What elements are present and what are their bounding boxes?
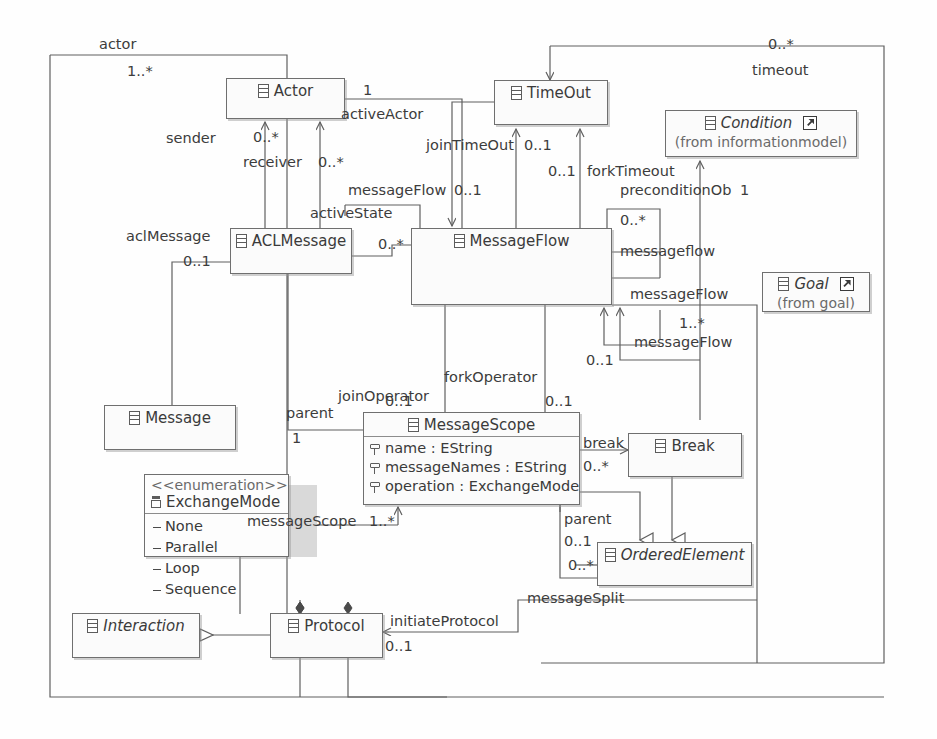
class-box-break[interactable]: Break bbox=[628, 433, 742, 477]
edge-label-activeactor-multiplicity: 1 bbox=[363, 82, 372, 98]
edge-label-jointimeout: joinTimeOut bbox=[426, 137, 514, 153]
edge-label-parent2: parent bbox=[564, 511, 612, 527]
class-box-messagescope[interactable]: MessageScope name : EString messageNames… bbox=[363, 412, 580, 505]
edge-label-messageflow-self: messageflow bbox=[620, 243, 715, 259]
class-title-goal: Goal bbox=[763, 273, 869, 295]
class-name-label: MessageScope bbox=[424, 416, 535, 434]
class-title-condition: Condition bbox=[666, 111, 856, 134]
class-box-messageflow[interactable]: MessageFlow bbox=[411, 228, 612, 305]
attribute-icon bbox=[370, 462, 380, 474]
edge-label-activestate: activeState bbox=[310, 205, 392, 221]
class-title-interaction: Interaction bbox=[73, 614, 199, 637]
class-icon bbox=[655, 439, 666, 453]
literal-dash-icon bbox=[153, 548, 161, 549]
class-name-label: Message bbox=[145, 409, 211, 427]
enum-literal-row: Loop bbox=[145, 558, 288, 579]
edge-label-messageflow-activestate: messageFlow bbox=[348, 182, 446, 198]
class-name-label: Goal bbox=[794, 275, 828, 293]
edge-label-forktimeout-multiplicity: 0..1 bbox=[548, 163, 576, 179]
enum-literal-row: Parallel bbox=[145, 537, 288, 558]
edge-label-forkoperator: forkOperator bbox=[444, 369, 537, 385]
attribute-icon bbox=[370, 481, 380, 493]
edge-label-messageflow-activestate-multiplicity: 0..1 bbox=[454, 182, 482, 198]
edge-label-receiver-multiplicity: 0..* bbox=[318, 154, 344, 170]
class-icon bbox=[408, 418, 419, 432]
edge-label-aclmessage-multiplicity: 0..1 bbox=[183, 253, 211, 269]
edge-label-sender-multiplicity: 0..* bbox=[253, 129, 279, 145]
enum-literal-label: Parallel bbox=[165, 539, 218, 555]
edge-label-initiateprotocol: initiateProtocol bbox=[390, 613, 499, 629]
class-icon bbox=[236, 234, 247, 248]
attribute-row: messageNames : EString bbox=[370, 458, 575, 477]
class-icon bbox=[778, 277, 789, 291]
class-title-break: Break bbox=[629, 434, 741, 457]
enum-literal-label: None bbox=[165, 518, 203, 534]
class-title-actor: Actor bbox=[227, 79, 344, 102]
class-box-orderedelement[interactable]: OrderedElement bbox=[597, 542, 752, 586]
class-package-label: (from goal) bbox=[763, 295, 869, 314]
edge-label-joinoperator-multiplicity: 0..1 bbox=[385, 393, 413, 409]
class-box-condition[interactable]: Condition (from informationmodel) bbox=[665, 110, 857, 157]
class-title-messagescope: MessageScope bbox=[364, 413, 579, 436]
edge-label-timeout-multiplicity: 0..* bbox=[768, 36, 794, 52]
attribute-icon bbox=[370, 443, 380, 455]
class-box-aclmessage[interactable]: ACLMessage bbox=[230, 228, 352, 274]
class-name-label: Break bbox=[671, 437, 714, 455]
external-ref-icon[interactable] bbox=[803, 116, 817, 130]
class-box-timeout[interactable]: TimeOut bbox=[494, 80, 608, 125]
class-icon bbox=[705, 116, 716, 130]
attribute-label: name : EString bbox=[385, 439, 493, 458]
class-box-interaction[interactable]: Interaction bbox=[72, 613, 200, 658]
class-icon bbox=[288, 619, 299, 633]
class-title-message: Message bbox=[105, 406, 235, 429]
class-box-actor[interactable]: Actor bbox=[226, 78, 345, 119]
edge-label-parent2-multiplicity: 0..1 bbox=[564, 533, 592, 549]
enum-literal-label: Loop bbox=[165, 560, 200, 576]
edge-label-break-multiplicity: 0..* bbox=[583, 458, 609, 474]
class-title-orderedelement: OrderedElement bbox=[598, 543, 751, 566]
class-name-label: TimeOut bbox=[527, 84, 591, 102]
class-name-label: MessageFlow bbox=[470, 232, 570, 250]
class-name-label: ACLMessage bbox=[252, 232, 347, 250]
edge-label-messageflow-c: messageFlow bbox=[630, 286, 728, 302]
edge-label-activeactor: activeActor bbox=[341, 106, 423, 122]
literal-dash-icon bbox=[153, 590, 161, 591]
class-icon bbox=[258, 84, 269, 98]
class-box-goal[interactable]: Goal (from goal) bbox=[762, 272, 870, 312]
enumeration-stereotype-label: <<enumeration>> bbox=[145, 475, 288, 493]
class-icon bbox=[87, 619, 98, 633]
class-name-label: Actor bbox=[274, 82, 313, 100]
edge-label-actor: actor bbox=[99, 36, 136, 52]
attribute-list-messagescope: name : EString messageNames : EString op… bbox=[364, 437, 579, 499]
enum-literal-row: Sequence bbox=[145, 579, 288, 600]
edge-label-messagescope: messageScope bbox=[247, 513, 356, 529]
edge-label-aclmessage: aclMessage bbox=[126, 228, 210, 244]
class-title-timeout: TimeOut bbox=[495, 81, 607, 104]
edge-label-timeout: timeout bbox=[752, 62, 809, 78]
edge-label-parent: parent bbox=[286, 405, 334, 421]
edge-label-forkoperator-multiplicity: 0..1 bbox=[545, 393, 573, 409]
class-name-label: OrderedElement bbox=[621, 546, 745, 564]
attribute-row: operation : ExchangeMode bbox=[370, 477, 575, 496]
class-name-label: ExchangeMode bbox=[166, 493, 280, 511]
class-icon bbox=[605, 548, 616, 562]
class-name-label: Protocol bbox=[304, 617, 364, 635]
edge-label-messagesplit: messageSplit bbox=[527, 590, 624, 606]
class-icon bbox=[454, 234, 465, 248]
attribute-label: messageNames : EString bbox=[385, 458, 567, 477]
attribute-row: name : EString bbox=[370, 439, 575, 458]
class-title-aclmessage: ACLMessage bbox=[231, 229, 351, 252]
edge-label-messageflow-left-multiplicity: 0..* bbox=[378, 236, 404, 252]
edge-label-preconditionobj: preconditionOb bbox=[620, 182, 731, 198]
edge-label-joinoperator: joinOperator bbox=[338, 388, 429, 404]
class-title-messageflow: MessageFlow bbox=[412, 229, 611, 252]
edge-label-preconditionobj-multiplicity: 1 bbox=[740, 182, 749, 198]
external-ref-icon[interactable] bbox=[840, 277, 854, 291]
enum-literal-label: Sequence bbox=[165, 581, 237, 597]
class-name-label: Interaction bbox=[103, 617, 184, 635]
edge-label-messageflow-self-multiplicity: 0..* bbox=[620, 212, 646, 228]
edge-label-receiver: receiver bbox=[243, 154, 302, 170]
class-box-message[interactable]: Message bbox=[104, 405, 236, 450]
edge-label-break: break bbox=[583, 435, 624, 451]
class-box-protocol[interactable]: Protocol bbox=[270, 613, 383, 658]
